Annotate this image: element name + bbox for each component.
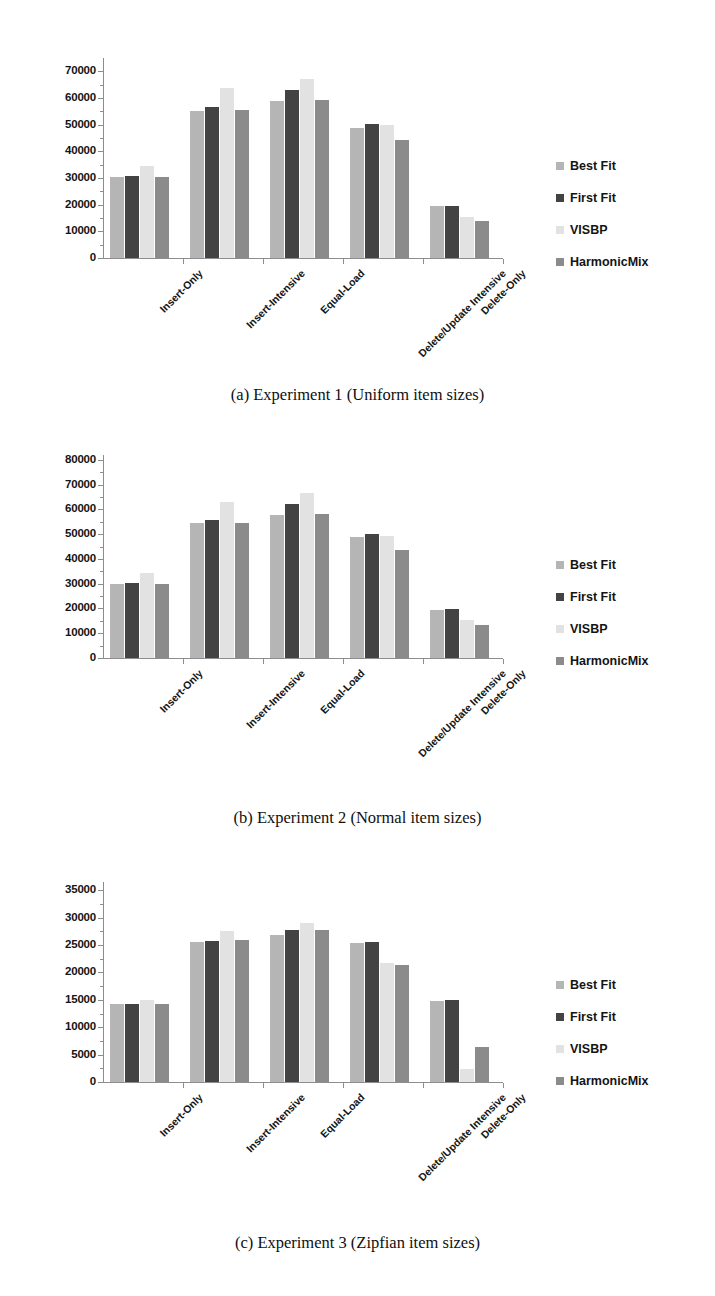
y-axis-minor-tick	[100, 646, 103, 647]
caption-experiment-3: (c) Experiment 3 (Zipfian item sizes)	[0, 1233, 715, 1253]
y-axis-tick-label: 30000	[40, 578, 96, 589]
y-axis-tick	[98, 1055, 103, 1056]
x-axis-tick	[423, 1083, 424, 1088]
y-axis-tick	[98, 509, 103, 510]
bar-best-fit	[430, 610, 444, 658]
x-axis-tick	[183, 659, 184, 664]
bar-harmonicmix	[235, 523, 249, 658]
bar-harmonicmix	[395, 965, 409, 1082]
y-axis-tick	[98, 1082, 103, 1083]
y-axis-tick-label: 10000	[40, 1021, 96, 1032]
legend-item-label: HarmonicMix	[570, 654, 649, 668]
bar-visbp	[300, 923, 314, 1082]
x-axis-tick	[263, 1083, 264, 1088]
x-axis-line	[103, 1082, 503, 1083]
legend-item[interactable]: VISBP	[556, 621, 649, 637]
y-axis-tick-label: 10000	[40, 627, 96, 638]
bar-first-fit	[365, 534, 379, 658]
y-axis-tick	[98, 1027, 103, 1028]
bar-best-fit	[110, 1004, 124, 1082]
x-axis-tick	[263, 659, 264, 664]
bar-best-fit	[110, 584, 124, 658]
x-axis-tick	[503, 1083, 504, 1088]
bar-harmonicmix	[315, 514, 329, 658]
legend-item-label: First Fit	[570, 1010, 616, 1024]
bar-best-fit	[190, 942, 204, 1082]
legend-swatch-icon	[556, 1077, 564, 1085]
bar-first-fit	[365, 942, 379, 1082]
legend-item-label: Best Fit	[570, 558, 616, 572]
bar-best-fit	[430, 1001, 444, 1082]
bar-first-fit	[445, 609, 459, 658]
bar-harmonicmix	[475, 1047, 489, 1082]
bar-harmonicmix	[315, 930, 329, 1082]
y-axis-tick	[98, 945, 103, 946]
legend-item[interactable]: HarmonicMix	[556, 653, 649, 669]
legend-item[interactable]: VISBP	[556, 1041, 649, 1057]
bar-chart-experiment-3: 05000100001500020000250003000035000Inser…	[0, 0, 715, 400]
bar-visbp	[300, 493, 314, 658]
y-axis-tick	[98, 890, 103, 891]
y-axis-line	[103, 882, 104, 1082]
legend-swatch-icon	[556, 981, 564, 989]
y-axis-tick-label: 50000	[40, 528, 96, 539]
bar-first-fit	[285, 930, 299, 1082]
y-axis-minor-tick	[100, 1068, 103, 1069]
y-axis-minor-tick	[100, 472, 103, 473]
legend-item-label: VISBP	[570, 1042, 608, 1056]
y-axis-minor-tick	[100, 571, 103, 572]
legend-item[interactable]: HarmonicMix	[556, 1073, 649, 1089]
bar-best-fit	[190, 523, 204, 658]
y-axis-tick-label: 15000	[40, 994, 96, 1005]
y-axis-tick-label: 40000	[40, 553, 96, 564]
y-axis-tick-label: 70000	[40, 479, 96, 490]
bar-harmonicmix	[235, 940, 249, 1082]
y-axis-tick-label: 0	[40, 1076, 96, 1087]
y-axis-tick	[98, 584, 103, 585]
legend-swatch-icon	[556, 561, 564, 569]
y-axis-minor-tick	[100, 931, 103, 932]
x-axis-category-label: Equal-Load	[318, 1091, 367, 1140]
legend-item[interactable]: First Fit	[556, 589, 649, 605]
y-axis-tick-label: 0	[40, 652, 96, 663]
legend-swatch-icon	[556, 1013, 564, 1021]
legend-swatch-icon	[556, 593, 564, 601]
y-axis-tick	[98, 1000, 103, 1001]
y-axis-tick	[98, 485, 103, 486]
bar-harmonicmix	[475, 625, 489, 658]
bar-first-fit	[125, 1004, 139, 1082]
x-axis-category-label: Insert-Intensive	[244, 1091, 307, 1154]
y-axis-minor-tick	[100, 904, 103, 905]
bar-visbp	[220, 931, 234, 1082]
y-axis-minor-tick	[100, 497, 103, 498]
x-axis-category-label: Insert-Only	[157, 1091, 205, 1139]
bar-visbp	[460, 620, 474, 658]
x-axis-tick	[503, 659, 504, 664]
legend-item[interactable]: First Fit	[556, 1009, 649, 1025]
y-axis-tick	[98, 658, 103, 659]
legend-item[interactable]: Best Fit	[556, 977, 649, 993]
y-axis-tick	[98, 534, 103, 535]
y-axis-minor-tick	[100, 1041, 103, 1042]
bar-visbp	[380, 536, 394, 658]
y-axis-tick-label: 60000	[40, 503, 96, 514]
y-axis-tick	[98, 972, 103, 973]
legend-swatch-icon	[556, 1045, 564, 1053]
y-axis-minor-tick	[100, 986, 103, 987]
bar-first-fit	[205, 520, 219, 658]
y-axis-tick-label: 20000	[40, 966, 96, 977]
y-axis-tick	[98, 460, 103, 461]
bar-visbp	[460, 1069, 474, 1082]
y-axis-tick-label: 25000	[40, 939, 96, 950]
bar-first-fit	[125, 583, 139, 658]
y-axis-tick	[98, 918, 103, 919]
legend-swatch-icon	[556, 657, 564, 665]
y-axis-tick-label: 20000	[40, 602, 96, 613]
x-axis-category-label: Insert-Intensive	[244, 667, 307, 730]
y-axis-tick-label: 30000	[40, 912, 96, 923]
legend-item[interactable]: Best Fit	[556, 557, 649, 573]
bar-first-fit	[285, 504, 299, 658]
x-axis-tick	[423, 659, 424, 664]
bar-first-fit	[445, 1000, 459, 1082]
bar-harmonicmix	[155, 584, 169, 658]
